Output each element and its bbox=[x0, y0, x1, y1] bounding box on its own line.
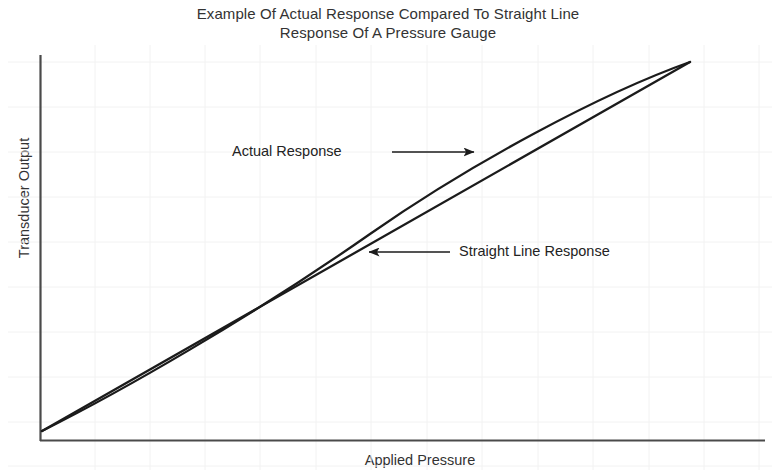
chart-figure: Example Of Actual Response Compared To S… bbox=[0, 0, 776, 476]
plot-area bbox=[0, 0, 776, 476]
annotation-label-actual-response: Actual Response bbox=[232, 143, 342, 159]
grid-lines bbox=[8, 45, 772, 470]
annotation-label-straight-line-response: Straight Line Response bbox=[459, 243, 610, 259]
axis-lines bbox=[40, 55, 765, 441]
